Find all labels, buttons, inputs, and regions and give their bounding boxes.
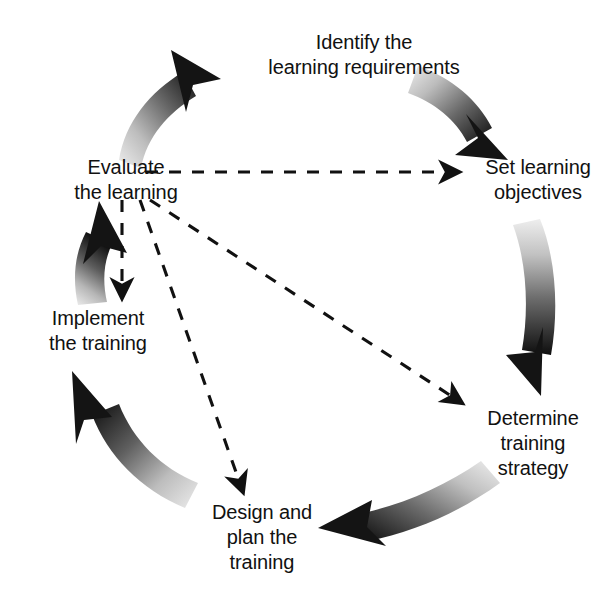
node-label-identify: Identify the learning requirements bbox=[259, 30, 469, 80]
training-cycle-diagram: Identify the learning requirements Set l… bbox=[0, 0, 611, 603]
cycle-arrow-implement-to-evaluate bbox=[75, 201, 127, 305]
node-label-set-objectives: Set learning objectives bbox=[467, 155, 609, 205]
cycle-arrow-design-to-implement bbox=[72, 371, 198, 508]
node-label-design: Design and plan the training bbox=[194, 500, 330, 575]
cycle-arrow-evaluate-to-identify bbox=[119, 50, 221, 168]
node-label-implement: Implement the training bbox=[26, 306, 170, 356]
node-label-determine: Determine training strategy bbox=[465, 406, 601, 481]
node-label-evaluate: Evaluate the learning bbox=[54, 155, 198, 205]
cycle-arrow-identify-to-set-objectives bbox=[408, 66, 508, 160]
feedback-arrow-evaluate-to-determine bbox=[150, 200, 462, 403]
cycle-arrow-set-objectives-to-determine bbox=[506, 219, 555, 396]
